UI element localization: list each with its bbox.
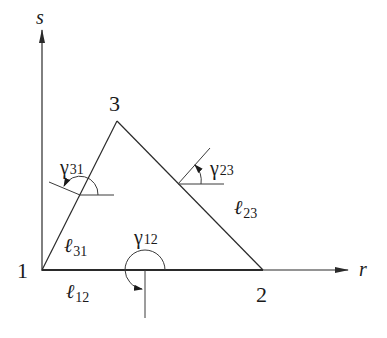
gamma31-label: γ31 (59, 156, 84, 179)
node-1-label: 1 (17, 258, 28, 283)
node-3-label: 3 (109, 91, 120, 116)
l12-label: ℓ12 (66, 280, 89, 305)
node-2-label: 2 (256, 282, 267, 307)
triangle-diagram: s r 1 2 3 γ31 γ23 γ12 ℓ31 ℓ12 ℓ23 (0, 0, 387, 338)
s-axis-label: s (36, 6, 44, 28)
l31-label: ℓ31 (64, 234, 87, 259)
gamma12-construction (125, 250, 165, 318)
l23-label: ℓ23 (234, 196, 257, 221)
r-axis-label: r (359, 258, 367, 280)
gamma23-label: γ23 (209, 157, 234, 180)
gamma12-label: γ12 (133, 226, 158, 249)
